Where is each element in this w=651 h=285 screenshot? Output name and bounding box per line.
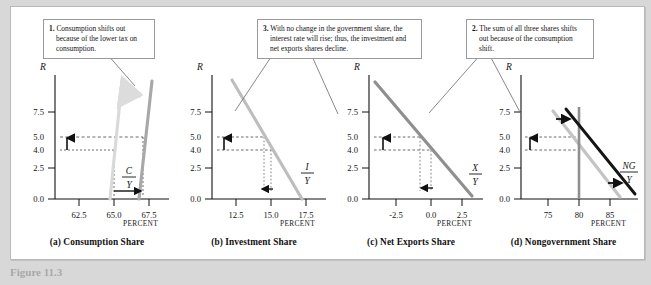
panel-d-ytick-4_0: 4.0 — [499, 145, 510, 155]
figure-caption-strip: Figure 11.3 — [10, 262, 643, 282]
panel-b-ytick-7_5: 7.5 — [190, 107, 201, 117]
panel-c-ytick-7_5: 7.5 — [347, 107, 358, 117]
panel-b-x-axis-unit: PERCENT — [280, 219, 315, 228]
panel-a-curve-label-numerator: C — [126, 166, 133, 176]
panel-c-curve-label-numerator: X — [471, 163, 479, 173]
figure-plate: 1. Consumption shifts out because of the… — [10, 6, 645, 260]
callout-1-number: 1. — [49, 24, 55, 33]
panel-a-ytick-2_5: 2.5 — [33, 163, 44, 173]
panel-d-y-axis-label: R — [505, 61, 512, 72]
panel-d-curve-original — [553, 111, 620, 197]
panel-d-x-axis-unit: PERCENT — [591, 219, 626, 228]
panel-a-xtick-1: 65.0 — [106, 210, 121, 220]
panel-b-ytick-4_0: 4.0 — [190, 145, 201, 155]
panel-a-x-axis-unit: PERCENT — [123, 219, 158, 228]
panel-d-curve-label-numerator: NG — [621, 161, 635, 171]
callout-box-1: 1. Consumption shifts out because of the… — [43, 19, 155, 59]
panel-d-curve-shifted — [566, 109, 635, 194]
panel-a-curve-shifted — [139, 81, 152, 199]
panel-c-y-axis-label: R — [353, 61, 360, 72]
panel-c-curve — [375, 82, 472, 196]
panel-a-shift-arrow — [126, 93, 141, 95]
panel-b-caption: (b) Investment Share — [174, 237, 334, 247]
panel-a-xtick-0: 62.5 — [71, 210, 86, 220]
figure-caption-ghost: Figure 11.3 — [10, 266, 62, 278]
panel-c-xtick-0: -2.5 — [389, 210, 403, 220]
panel-a-curve-label-denominator: Y — [126, 180, 133, 190]
panel-b-ytick-5_0: 5.0 — [190, 132, 201, 142]
panel-d-xtick-1: 80 — [575, 210, 584, 220]
panel-d-caption: (d) Nongovernment Share — [483, 237, 644, 247]
panel-a-y-axis-label: R — [39, 61, 46, 72]
figure-container: 1. Consumption shifts out because of the… — [0, 0, 651, 285]
callout-3-number: 3. — [263, 24, 269, 33]
panel-c-ytick-4_0: 4.0 — [347, 145, 358, 155]
panel-a-ytick-0: 0.0 — [33, 194, 44, 204]
panel-d-ytick-7_5: 7.5 — [499, 107, 510, 117]
panel-a-ytick-7_5: 7.5 — [33, 107, 44, 117]
panel-b-curve — [232, 80, 302, 199]
panel-d-xtick-0: 75 — [544, 210, 553, 220]
panel-d-ytick-2_5: 2.5 — [499, 163, 510, 173]
panel-c-caption: (c) Net Exports Share — [331, 237, 491, 247]
panel-a-caption: (a) Consumption Share — [17, 237, 177, 247]
callout-box-2: 2. The sum of all three shares shifts ou… — [466, 19, 594, 59]
panel-b-xtick-0: 12.5 — [228, 210, 243, 220]
panel-d-ytick-0: 0.0 — [499, 194, 510, 204]
panel-a-curve-original — [110, 81, 122, 199]
callout-3-text: With no change in the government share, … — [270, 24, 406, 53]
panel-c-ytick-2_5: 2.5 — [347, 163, 358, 173]
panel-a-ytick-5_0: 5.0 — [33, 132, 44, 142]
callout-1-text: Consumption shifts out because of the lo… — [56, 24, 137, 53]
panel-b-y-axis-label: R — [196, 61, 203, 72]
panel-c-curve-label-denominator: Y — [472, 177, 479, 187]
panel-b-curve-label-numerator: I — [304, 162, 309, 172]
panel-c-ytick-5_0: 5.0 — [347, 132, 358, 142]
panel-b-xtick-1: 15.0 — [263, 210, 278, 220]
callout-2-number: 2. — [472, 24, 478, 33]
callout-2-text: The sum of all three shares shifts out b… — [479, 24, 577, 53]
panel-c-x-axis-unit: PERCENT — [437, 219, 472, 228]
panel-b-ytick-0: 0.0 — [190, 194, 201, 204]
panel-c-xtick-1: 0.0 — [426, 210, 437, 220]
panel-b-ytick-2_5: 2.5 — [190, 163, 201, 173]
panel-d-ytick-5_0: 5.0 — [499, 132, 510, 142]
panel-b-curve-label-denominator: Y — [304, 176, 311, 186]
panel-c-ytick-0: 0.0 — [347, 194, 358, 204]
panel-d-curve-label-denominator: Y — [626, 175, 633, 185]
panel-a-ytick-4_0: 4.0 — [33, 145, 44, 155]
callout-box-3: 3. With no change in the government shar… — [257, 19, 422, 59]
